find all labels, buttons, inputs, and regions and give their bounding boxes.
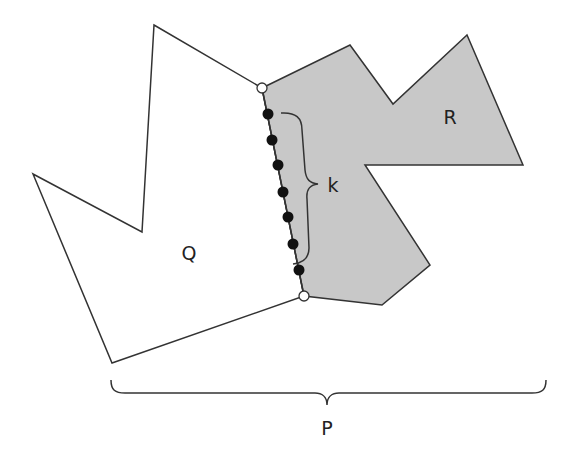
label-k: k [327,174,338,196]
label-p: P [321,417,332,439]
point-dot [278,187,289,198]
point-dot [288,239,299,250]
point-dot [294,265,305,276]
point-dot [263,109,274,120]
label-q: Q [182,242,197,264]
p-brace [111,380,546,405]
point-dot [267,135,278,146]
polygon-q [33,25,304,363]
endpoint-bottom [299,291,309,301]
polygon-r [262,35,523,305]
label-r: R [443,106,456,128]
point-dot [273,160,284,171]
endpoint-top [257,83,267,93]
polygon-diagram: Q R k P [0,0,572,461]
point-dot [283,212,294,223]
